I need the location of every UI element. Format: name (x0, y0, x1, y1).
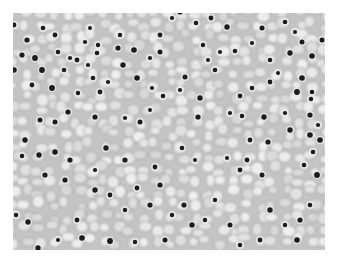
cell-nucleus (103, 145, 108, 150)
cell-nucleus (308, 203, 313, 208)
cell-nucleus (53, 120, 58, 125)
cell-nucleus (95, 51, 100, 56)
cell-nucleus (106, 80, 110, 84)
cell-nucleus (225, 156, 229, 160)
cell-nucleus (86, 63, 90, 67)
cell-nucleus (56, 50, 61, 55)
cell-nucleus (213, 198, 217, 202)
cell-nucleus (248, 138, 253, 143)
cell-nucleus (311, 150, 316, 155)
cell-nucleus (287, 127, 292, 132)
cell-nucleus (92, 114, 97, 119)
cell-nucleus (194, 21, 199, 26)
cell-nucleus (307, 132, 313, 138)
cell-nucleus (24, 37, 29, 42)
cell-nucleus (158, 50, 163, 55)
cell-nucleus (181, 202, 186, 207)
cell-nucleus (134, 75, 140, 81)
cell-nucleus (294, 89, 300, 95)
cell-nucleus (62, 68, 67, 73)
cell-nucleus (294, 237, 300, 243)
cell-nucleus (250, 41, 254, 45)
cell-nucleus (258, 238, 263, 243)
cell-nucleus (287, 50, 292, 55)
cell-nucleus (62, 177, 67, 182)
cell-nucleus (238, 168, 243, 173)
cell-nucleus (131, 47, 137, 53)
cell-nucleus (293, 30, 297, 34)
cell-nucleus (92, 187, 97, 192)
cell-nucleus (120, 62, 125, 67)
cell-nucleus (42, 172, 47, 177)
cell-nucleus (148, 108, 152, 112)
cell-nucleus (283, 20, 288, 25)
cell-nucleus (83, 40, 87, 44)
cell-nucleus (123, 208, 127, 212)
cell-nucleus (52, 149, 58, 155)
cell-nucleus (197, 95, 202, 100)
cell-nucleus (53, 33, 58, 38)
cell-nucleus (250, 86, 255, 91)
cell-nucleus (118, 33, 122, 37)
cell-nucleus (39, 67, 45, 73)
cell-nucleus (238, 94, 243, 99)
cell-nucleus (218, 50, 222, 54)
cell-nucleus (314, 172, 320, 178)
cell-nucleus (178, 88, 182, 92)
cell-nucleus (123, 116, 127, 120)
cell-nucleus (161, 94, 166, 99)
cell-nucleus (261, 114, 266, 119)
cell-nucleus (193, 158, 197, 162)
cell-nucleus (96, 43, 100, 47)
cell-nucleus (317, 137, 323, 143)
cell-nucleus (76, 91, 80, 95)
cell-nucleus (20, 154, 25, 159)
cell-nucleus (158, 33, 163, 38)
cell-nucleus (310, 90, 315, 95)
cell-nucleus (245, 158, 250, 163)
cell-nucleus (203, 218, 207, 222)
cell-nucleus (240, 114, 245, 119)
cell-nucleus (19, 52, 24, 57)
cell-nucleus (267, 207, 272, 212)
cell-nucleus (276, 71, 280, 75)
cell-nucleus (302, 163, 307, 168)
cell-nucleus (157, 182, 162, 187)
cell-nucleus (153, 165, 158, 170)
cell-nucleus (36, 152, 41, 157)
micrograph-image (13, 13, 325, 250)
cell-nucleus (41, 26, 46, 31)
cell-nucleus (320, 38, 325, 43)
cell-nucleus (67, 157, 72, 162)
cell-nucleus (228, 111, 232, 115)
cell-nucleus (14, 213, 18, 217)
cell-nucleus (213, 68, 218, 73)
cell-nucleus (56, 238, 60, 242)
cell-nucleus (49, 85, 55, 91)
cell-nucleus (170, 213, 174, 217)
cell-nucleus (98, 90, 103, 95)
cell-nucleus (38, 118, 43, 123)
cell-nucleus (91, 76, 96, 81)
cell-nucleus (65, 109, 70, 114)
cell-nucleus (122, 157, 127, 162)
cell-nucleus (32, 55, 38, 61)
cell-nucleus (206, 58, 210, 62)
cell-nucleus (138, 120, 143, 125)
cell-nucleus (115, 45, 120, 50)
cell-nucleus (228, 223, 233, 228)
cell-nucleus (260, 173, 265, 178)
cell-nucleus (260, 26, 265, 31)
cell-nucleus (93, 168, 97, 172)
cell-nucleus (224, 24, 229, 29)
cell-nucleus (209, 16, 214, 21)
cell-nucleus (283, 111, 287, 115)
cell-nucleus (201, 43, 205, 47)
cell-nucleus (148, 56, 152, 60)
cell-nucleus (307, 112, 312, 117)
cell-nucleus (265, 139, 270, 144)
cell-nucleus (268, 80, 273, 85)
cell-nucleus (163, 238, 168, 243)
cell-nucleus (135, 186, 140, 191)
cell-nucleus (107, 238, 113, 244)
